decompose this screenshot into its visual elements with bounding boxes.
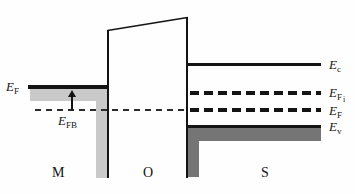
intrinsic-fermi-label-subsub: i (343, 95, 345, 104)
flatband-label: EFB (58, 114, 77, 129)
valence-band-line (188, 125, 321, 128)
flatband-arrow-stem (71, 96, 73, 110)
conduction-band-label-base: E (329, 57, 337, 72)
metal-fermi-label-base: E (6, 79, 14, 94)
flatband-label-sub: FB (66, 120, 77, 130)
oxide-region-label: O (143, 165, 153, 180)
mos-band-diagram: EF EFB Ec EFi EF Ev M O S (0, 0, 355, 194)
intrinsic-fermi-label-base: E (329, 85, 337, 100)
conduction-band-label: Ec (329, 58, 341, 73)
valence-band-label-base: E (329, 119, 337, 134)
semiconductor-fermi-dashed-line (190, 108, 321, 112)
semiconductor-fermi-label-base: E (329, 103, 337, 118)
metal-fermi-label-sub: F (14, 86, 19, 96)
intrinsic-fermi-label-sub: F (337, 92, 342, 102)
flatband-label-base: E (58, 113, 66, 128)
semiconductor-fermi-label: EF (329, 104, 342, 119)
conduction-band-line (188, 63, 321, 66)
intrinsic-fermi-dashed-line (190, 91, 321, 95)
valence-band-label-sub: v (337, 126, 342, 136)
intrinsic-fermi-label: EFi (329, 86, 345, 102)
flatband-reference-dashed-line (35, 109, 187, 111)
conduction-band-label-sub: c (337, 64, 341, 74)
valence-band-label: Ev (329, 120, 341, 135)
metal-region-label: M (52, 165, 64, 180)
semiconductor-fermi-label-sub: F (337, 110, 342, 120)
semiconductor-region-label: S (261, 165, 269, 180)
metal-fermi-label: EF (6, 80, 19, 95)
